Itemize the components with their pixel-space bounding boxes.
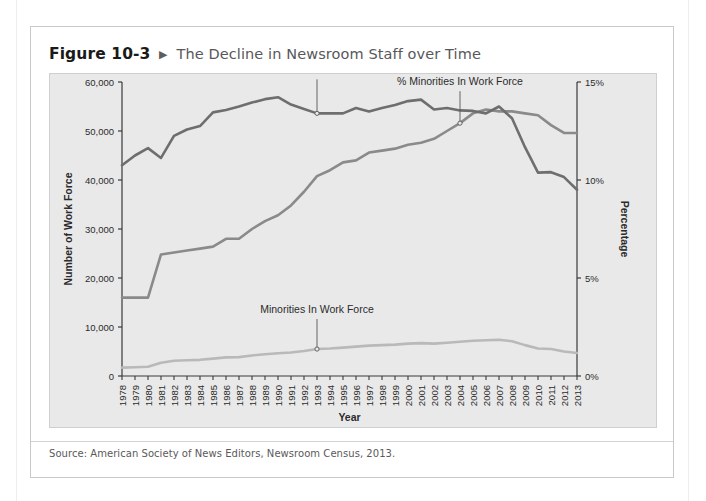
x-tick-label: 2010	[533, 385, 544, 406]
x-tick-label: 2000	[403, 385, 414, 406]
series-line-2	[122, 340, 577, 368]
y-tick-label-right: 0%	[585, 371, 599, 382]
y-tick-label-right: 15%	[585, 77, 605, 88]
y-tick-label-right: 10%	[585, 175, 605, 186]
y-tick-label-left: 60,000	[85, 77, 114, 88]
x-axis-title: Year	[338, 411, 360, 423]
x-tick-label: 2012	[559, 385, 570, 406]
series-annotation-label: % Minorities In Work Force	[397, 75, 523, 87]
figure-header: Figure 10-3 ▶ The Decline in Newsroom St…	[49, 41, 481, 67]
x-tick-label: 1979	[130, 385, 141, 406]
x-tick-label: 1982	[169, 385, 180, 406]
x-tick-label: 2009	[520, 385, 531, 406]
y-tick-label-right: 5%	[585, 273, 599, 284]
x-tick-label: 1995	[338, 385, 349, 406]
x-tick-label: 1998	[377, 385, 388, 406]
x-tick-label: 2006	[481, 385, 492, 406]
x-tick-label: 1987	[234, 385, 245, 406]
annotation-marker	[458, 121, 462, 125]
x-tick-label: 2005	[468, 385, 479, 406]
annotation-marker	[315, 347, 319, 351]
x-tick-label: 1990	[273, 385, 284, 406]
x-tick-label: 2007	[494, 385, 505, 406]
x-tick-label: 2011	[546, 385, 557, 405]
x-tick-label: 1999	[390, 385, 401, 406]
x-tick-label: 1992	[299, 385, 310, 406]
x-tick-label: 2008	[507, 385, 518, 406]
y-axis-title-left: Number of Work Force	[62, 172, 74, 285]
y-tick-label-left: 0	[109, 371, 114, 382]
x-tick-label: 1980	[143, 385, 154, 406]
source-divider	[31, 441, 673, 442]
series-annotation-label: Total Work Force	[277, 74, 356, 75]
x-tick-label: 1997	[364, 385, 375, 406]
x-tick-label: 1988	[247, 385, 258, 406]
page-seam-right	[688, 0, 689, 501]
y-tick-label-left: 30,000	[85, 224, 114, 235]
y-axis-title-right: Percentage	[619, 201, 631, 258]
x-tick-label: 1985	[208, 385, 219, 406]
x-tick-label: 1981	[156, 385, 167, 406]
figure-title: The Decline in Newsroom Staff over Time	[176, 46, 480, 62]
series-line-1	[122, 109, 577, 297]
chart-plot-area: 010,00020,00030,00040,00050,00060,0000%5…	[49, 73, 657, 428]
x-tick-label: 1983	[182, 385, 193, 406]
series-annotation-label: Minorities In Work Force	[260, 303, 374, 315]
y-tick-label-left: 10,000	[85, 322, 114, 333]
page-seam-left	[16, 0, 17, 501]
x-tick-label: 2001	[416, 385, 427, 406]
y-tick-label-left: 20,000	[85, 273, 114, 284]
y-tick-label-left: 40,000	[85, 175, 114, 186]
x-tick-label: 1978	[117, 385, 128, 406]
figure-card: Figure 10-3 ▶ The Decline in Newsroom St…	[30, 26, 674, 478]
annotation-marker	[315, 111, 319, 115]
x-tick-label: 2013	[572, 385, 583, 406]
x-tick-label: 2003	[442, 385, 453, 406]
line-chart: 010,00020,00030,00040,00050,00060,0000%5…	[50, 74, 656, 427]
y-tick-label-left: 50,000	[85, 126, 114, 137]
x-tick-label: 1989	[260, 385, 271, 406]
triangle-right-icon: ▶	[159, 49, 167, 60]
x-tick-label: 2002	[429, 385, 440, 406]
x-tick-label: 1984	[195, 385, 206, 406]
figure-number: Figure 10-3	[49, 45, 150, 63]
x-tick-label: 1993	[312, 385, 323, 406]
x-tick-label: 1986	[221, 385, 232, 406]
x-tick-label: 1994	[325, 385, 336, 406]
figure-root: Figure 10-3 ▶ The Decline in Newsroom St…	[0, 0, 706, 501]
x-tick-label: 2004	[455, 385, 466, 406]
source-note: Source: American Society of News Editors…	[49, 448, 395, 459]
x-tick-label: 1996	[351, 385, 362, 406]
x-tick-label: 1991	[286, 385, 297, 406]
